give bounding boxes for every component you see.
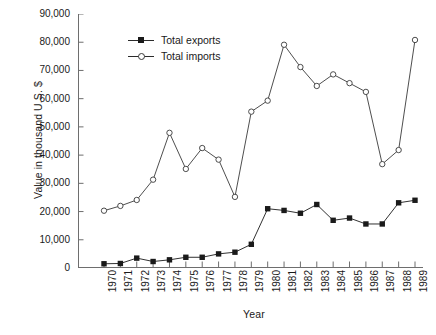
x-axis-tick-label: 1973 — [157, 270, 167, 308]
data-point-circle — [118, 203, 123, 208]
chart-legend: Total exports Total imports — [128, 32, 221, 64]
data-point-square — [396, 200, 401, 205]
x-axis-tick-label: 1983 — [321, 270, 331, 308]
x-axis-tick-label: 1980 — [272, 270, 282, 308]
y-axis-tick-label: 70,000 — [24, 65, 70, 75]
figure-caption — [14, 327, 434, 335]
data-point-square — [265, 206, 270, 211]
data-point-square — [118, 261, 123, 266]
data-point-square — [363, 221, 368, 226]
data-point-square — [249, 242, 254, 247]
data-point-circle — [150, 177, 155, 182]
x-axis-tick-label: 1984 — [337, 270, 347, 308]
x-axis-tick-label: 1974 — [173, 270, 183, 308]
x-axis-tick-label: 1989 — [419, 270, 429, 308]
y-axis-ticks — [79, 14, 84, 268]
open-circle-marker-icon — [128, 51, 154, 61]
data-point-circle — [265, 98, 270, 103]
data-point-square — [150, 259, 155, 264]
data-point-circle — [380, 161, 385, 166]
x-axis-tick-label: 1978 — [239, 270, 249, 308]
data-point-circle — [249, 109, 254, 114]
y-axis-tick-label: 10,000 — [24, 235, 70, 245]
series-line — [104, 40, 415, 211]
data-point-circle — [134, 197, 139, 202]
x-axis-tick-label: 1977 — [223, 270, 233, 308]
y-axis-tick-labels: 010,00020,00030,00040,00050,00060,00070,… — [24, 0, 70, 335]
x-axis-tick-label: 1979 — [255, 270, 265, 308]
data-point-circle — [412, 37, 417, 42]
x-axis-title-text: Year — [243, 308, 265, 320]
x-axis-tick-label: 1988 — [403, 270, 413, 308]
data-point-square — [134, 255, 139, 260]
y-axis-tick-label: 20,000 — [24, 207, 70, 217]
data-point-square — [183, 255, 188, 260]
x-axis-tick-label: 1985 — [354, 270, 364, 308]
y-axis-tick-label: 90,000 — [24, 9, 70, 19]
data-point-circle — [347, 80, 352, 85]
data-point-circle — [200, 145, 205, 150]
data-point-circle — [216, 157, 221, 162]
x-axis-tick-label: 1971 — [124, 270, 134, 308]
data-point-circle — [167, 130, 172, 135]
data-point-circle — [101, 208, 106, 213]
y-axis-tick-label: 40,000 — [24, 150, 70, 160]
legend-label-total-exports: Total exports — [161, 32, 221, 48]
y-axis-tick-label: 80,000 — [24, 37, 70, 47]
data-point-square — [314, 202, 319, 207]
filled-square-marker-icon — [128, 35, 154, 45]
data-point-square — [281, 208, 286, 213]
data-point-circle — [298, 64, 303, 69]
x-axis-title: Year — [0, 308, 436, 320]
data-point-circle — [363, 89, 368, 94]
y-axis-tick-label: 50,000 — [24, 122, 70, 132]
data-point-square — [216, 251, 221, 256]
data-point-circle — [232, 194, 237, 199]
x-axis-tick-label: 1986 — [370, 270, 380, 308]
series-total-exports — [101, 198, 417, 267]
x-axis-tick-label: 1987 — [386, 270, 396, 308]
data-point-square — [200, 255, 205, 260]
data-point-square — [412, 198, 417, 203]
data-point-circle — [396, 147, 401, 152]
legend-item-total-exports: Total exports — [128, 32, 221, 48]
data-point-circle — [314, 83, 319, 88]
data-point-square — [167, 257, 172, 262]
series-line — [104, 200, 415, 264]
y-axis-tick-label: 30,000 — [24, 178, 70, 188]
x-axis-tick-label: 1970 — [108, 270, 118, 308]
x-axis-tick-label: 1982 — [304, 270, 314, 308]
x-axis-tick-label: 1976 — [206, 270, 216, 308]
data-point-square — [101, 261, 106, 266]
data-point-circle — [330, 72, 335, 77]
x-axis-tick-label: 1981 — [288, 270, 298, 308]
y-axis-tick-label: 0 — [24, 263, 70, 273]
data-series-layer — [101, 37, 417, 266]
x-axis-tick-label: 1972 — [141, 270, 151, 308]
chart-figure: Value in thousand U.S. $ 010,00020,00030… — [0, 0, 436, 335]
data-point-circle — [281, 42, 286, 47]
data-point-circle — [183, 166, 188, 171]
x-axis-tick-label: 1975 — [190, 270, 200, 308]
legend-label-total-imports: Total imports — [161, 48, 221, 64]
x-axis-tick-labels: 1970197119721973197419751976197719781979… — [78, 270, 423, 310]
data-point-square — [298, 211, 303, 216]
data-point-square — [232, 249, 237, 254]
y-axis-tick-label: 60,000 — [24, 94, 70, 104]
data-point-square — [380, 221, 385, 226]
legend-item-total-imports: Total imports — [128, 48, 221, 64]
data-point-square — [330, 218, 335, 223]
data-point-square — [347, 215, 352, 220]
